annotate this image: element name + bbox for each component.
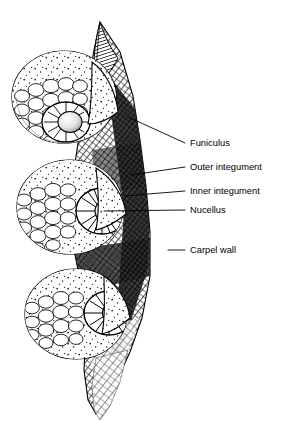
label-outer-integument-text: Outer integument xyxy=(190,162,262,172)
ovule-upper-micropyle xyxy=(42,102,90,142)
label-carpel-wall-text: Carpel wall xyxy=(190,245,236,255)
diagram-canvas: Funiculus Outer integument Inner integum… xyxy=(0,0,285,429)
label-nucellus-text: Nucellus xyxy=(190,205,226,215)
label-funiculus-text: Funiculus xyxy=(190,138,230,148)
ovule-upper-nucellus xyxy=(58,112,82,133)
ovule-diagram-figure: Funiculus Outer integument Inner integum… xyxy=(0,0,285,429)
label-inner-integument-text: Inner integument xyxy=(190,186,260,196)
